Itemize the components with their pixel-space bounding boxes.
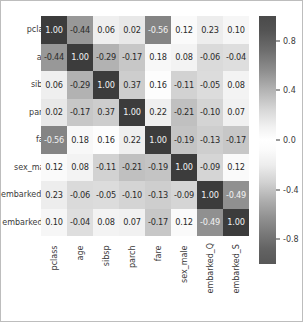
heatmap-grid: 1.00-0.440.060.02-0.560.120.230.10-0.441… <box>41 16 249 236</box>
colorbar-tick-text: 0.8 <box>283 36 296 45</box>
colorbar-tick-text: 0.4 <box>283 86 296 95</box>
heatmap-cell: -0.29 <box>93 44 119 72</box>
heatmap-cell: 0.12 <box>223 154 249 182</box>
colorbar-gradient <box>259 16 276 264</box>
x-tick-wrap: embarked_Q <box>197 237 223 317</box>
heatmap-cell: 1.00 <box>145 126 171 154</box>
heatmap-cell: 0.12 <box>41 154 67 182</box>
heatmap-cell: -0.10 <box>197 99 223 127</box>
colorbar-tick: 0.8 <box>276 36 296 45</box>
heatmap-cell: 0.08 <box>93 209 119 237</box>
heatmap-cell: -0.21 <box>119 154 145 182</box>
x-tick-wrap: pclass <box>41 237 67 317</box>
heatmap-cell: -0.04 <box>67 209 93 237</box>
x-tick-wrap: sex_male <box>171 237 197 317</box>
y-axis-tick-labels: pclassagesibspparchfaresex_maleembarked_… <box>1 16 38 236</box>
heatmap-cell: 0.18 <box>145 44 171 72</box>
x-tick-label-embarked_S: embarked_S <box>232 246 241 294</box>
heatmap-cell: 0.23 <box>41 181 67 209</box>
heatmap-cell: 0.12 <box>171 16 197 44</box>
heatmap-cell: -0.09 <box>171 181 197 209</box>
colorbar-tick-mark <box>276 40 280 41</box>
heatmap-cell: 1.00 <box>171 154 197 182</box>
heatmap-cell: -0.17 <box>223 126 249 154</box>
heatmap-cell: -0.11 <box>93 154 119 182</box>
heatmap-cell: 0.37 <box>93 99 119 127</box>
heatmap-cell: 1.00 <box>197 181 223 209</box>
x-tick-wrap: embarked_S <box>223 237 249 317</box>
heatmap-cell: 1.00 <box>41 16 67 44</box>
heatmap-cell: 0.16 <box>93 126 119 154</box>
x-tick-label-pclass: pclass <box>50 246 59 294</box>
heatmap-cell: -0.06 <box>197 44 223 72</box>
heatmap-cell: 0.23 <box>197 16 223 44</box>
heatmap-cell: -0.09 <box>197 154 223 182</box>
colorbar-tick-labels: 0.80.40.0-0.4-0.8 <box>276 16 303 264</box>
colorbar-tick-mark <box>276 239 280 240</box>
heatmap-cell: 0.22 <box>145 99 171 127</box>
heatmap-cell: 0.12 <box>171 209 197 237</box>
heatmap-cell: -0.21 <box>171 99 197 127</box>
heatmap-cell: 0.10 <box>41 209 67 237</box>
heatmap-cell: -0.29 <box>67 71 93 99</box>
heatmap-cell: -0.10 <box>119 181 145 209</box>
colorbar-tick-text: 0.0 <box>283 136 296 145</box>
correlation-heatmap-figure: pclassagesibspparchfaresex_maleembarked_… <box>0 0 303 322</box>
colorbar-tick-text: -0.4 <box>283 185 299 194</box>
heatmap-cell: 1.00 <box>223 209 249 237</box>
x-tick-label-sibsp: sibsp <box>102 246 111 294</box>
heatmap-cell: 0.06 <box>93 16 119 44</box>
x-tick-wrap: age <box>67 237 93 317</box>
heatmap-cell: -0.13 <box>197 126 223 154</box>
colorbar-tick-mark <box>276 140 280 141</box>
heatmap-cell: -0.05 <box>197 71 223 99</box>
heatmap-cell: -0.13 <box>145 181 171 209</box>
heatmap-cell: 1.00 <box>93 71 119 99</box>
colorbar-tick: -0.4 <box>276 185 299 194</box>
heatmap-cell: 0.22 <box>119 126 145 154</box>
heatmap-cell: 0.02 <box>119 16 145 44</box>
colorbar-tick-text: -0.8 <box>283 235 299 244</box>
heatmap-cell: -0.44 <box>41 44 67 72</box>
heatmap-cell: -0.49 <box>223 181 249 209</box>
x-tick-wrap: fare <box>145 237 171 317</box>
heatmap-cell: 0.08 <box>171 44 197 72</box>
heatmap-cell: -0.04 <box>223 44 249 72</box>
colorbar-tick: 0.0 <box>276 136 296 145</box>
heatmap-cell: 1.00 <box>67 44 93 72</box>
heatmap-cell: -0.19 <box>171 126 197 154</box>
x-axis-tick-labels: pclassagesibspparchfaresex_maleembarked_… <box>41 237 249 317</box>
heatmap-cell: -0.11 <box>171 71 197 99</box>
x-tick-label-age: age <box>76 246 85 294</box>
heatmap-cell: 0.10 <box>223 16 249 44</box>
heatmap-cell: 0.07 <box>223 99 249 127</box>
x-tick-label-sex_male: sex_male <box>180 246 189 294</box>
heatmap-cell: 0.18 <box>67 126 93 154</box>
heatmap-cell: -0.56 <box>41 126 67 154</box>
heatmap-cell: -0.56 <box>145 16 171 44</box>
heatmap-cell: 0.02 <box>41 99 67 127</box>
colorbar-tick: 0.4 <box>276 86 296 95</box>
heatmap-cell: -0.19 <box>145 154 171 182</box>
x-tick-label-parch: parch <box>128 246 137 294</box>
heatmap-cell: -0.49 <box>197 209 223 237</box>
heatmap-cell: -0.17 <box>145 209 171 237</box>
colorbar-tick: -0.8 <box>276 235 299 244</box>
heatmap-cell: 0.08 <box>67 154 93 182</box>
heatmap-cell: -0.06 <box>67 181 93 209</box>
heatmap-cell: 0.37 <box>119 71 145 99</box>
heatmap-cell: 1.00 <box>119 99 145 127</box>
heatmap-cell: 0.16 <box>145 71 171 99</box>
x-tick-label-fare: fare <box>154 246 163 294</box>
x-tick-wrap: sibsp <box>93 237 119 317</box>
heatmap-cell: 0.07 <box>119 209 145 237</box>
heatmap-cell: 0.06 <box>41 71 67 99</box>
heatmap-cell: -0.05 <box>93 181 119 209</box>
heatmap-cell: 0.08 <box>223 71 249 99</box>
x-tick-wrap: parch <box>119 237 145 317</box>
x-tick-label-embarked_Q: embarked_Q <box>206 246 215 294</box>
heatmap-cell: -0.17 <box>119 44 145 72</box>
heatmap-cell: -0.17 <box>67 99 93 127</box>
heatmap-cell: -0.44 <box>67 16 93 44</box>
colorbar-tick-mark <box>276 189 280 190</box>
